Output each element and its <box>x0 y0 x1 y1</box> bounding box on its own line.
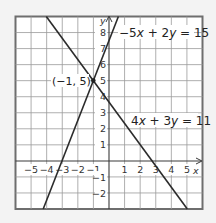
intersection-point <box>91 78 96 83</box>
x-tick-label: 4 <box>168 164 174 175</box>
x-tick-label: −4 <box>40 164 54 175</box>
coordinate-plane: −5−4−3−2−112345−2−112345678 x y −5x + 2y… <box>0 0 216 223</box>
y-tick-label: 3 <box>100 107 106 118</box>
y-tick-label: −2 <box>92 188 106 199</box>
y-tick-label: 1 <box>100 139 106 150</box>
y-tick-label: −1 <box>92 172 106 183</box>
intersection-label: (−1, 5) <box>52 75 91 88</box>
y-tick-label: 2 <box>100 123 106 134</box>
x-tick-label: −5 <box>24 164 38 175</box>
eq1-label: −5x + 2y = 15 <box>119 26 209 40</box>
x-tick-label: −2 <box>71 164 85 175</box>
x-tick-label: 1 <box>122 164 128 175</box>
eq2-label: 4x + 3y = 11 <box>131 114 211 128</box>
y-axis-label: y <box>99 15 106 26</box>
y-tick-label: 5 <box>100 75 106 86</box>
x-tick-label: 2 <box>137 164 143 175</box>
y-tick-label: 8 <box>100 27 106 38</box>
x-tick-label: 5 <box>184 164 190 175</box>
x-axis-label: x <box>192 165 199 176</box>
